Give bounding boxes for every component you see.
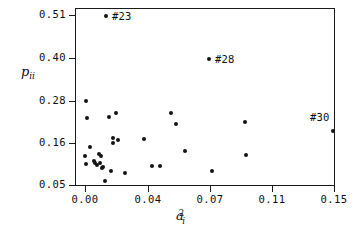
data-point (99, 154, 103, 158)
data-point (107, 115, 111, 119)
data-point (150, 164, 154, 168)
data-point (123, 171, 127, 175)
data-point (244, 153, 248, 157)
x-tick-label: 0.07 (197, 193, 224, 205)
point-annotation-label: #23 (112, 10, 132, 22)
scatter-plot-figure: 0.050.160.280.400.51 0.000.040.070.110.1… (0, 0, 363, 235)
y-tick-label: 0.40 (39, 51, 66, 63)
y-tick-label: 0.28 (39, 94, 66, 106)
plot-frame (75, 8, 335, 186)
x-tick-label: 0.11 (259, 193, 286, 205)
data-point (142, 137, 146, 141)
y-axis-title-subscript: ii (29, 71, 34, 81)
x-tick-mark (148, 186, 149, 192)
point-annotation-label: #30 (310, 111, 330, 123)
data-point (109, 169, 113, 173)
x-tick-mark (334, 186, 335, 192)
x-tick-mark (210, 186, 211, 192)
data-point (85, 116, 89, 120)
data-point (183, 149, 187, 153)
plot-area (76, 9, 334, 185)
x-tick-label: 0.00 (72, 193, 99, 205)
data-point (103, 179, 107, 183)
x-tick-label: 0.04 (135, 193, 162, 205)
y-tick-label: 0.51 (39, 8, 66, 20)
data-point (84, 99, 88, 103)
point-annotation-label: #28 (215, 53, 235, 65)
data-point (169, 111, 173, 115)
data-point (210, 169, 214, 173)
data-point (101, 165, 105, 169)
x-axis-title: a2i (176, 208, 185, 226)
data-point (116, 138, 120, 142)
x-tick-mark (272, 186, 273, 192)
data-point (83, 154, 87, 158)
data-point (84, 162, 88, 166)
data-point (104, 14, 108, 18)
data-point (174, 122, 178, 126)
data-point (114, 111, 118, 115)
data-point (111, 136, 115, 140)
y-tick-label: 0.05 (39, 178, 66, 190)
x-tick-mark (85, 186, 86, 192)
y-axis-title: pii (21, 64, 35, 81)
data-point (207, 57, 211, 61)
y-tick-label: 0.16 (39, 136, 66, 148)
data-point (88, 145, 92, 149)
x-axis-title-subscript: i (182, 216, 185, 226)
data-point (111, 141, 115, 145)
data-point (158, 164, 162, 168)
x-tick-label: 0.15 (321, 193, 348, 205)
data-point (331, 129, 335, 133)
data-point (243, 120, 247, 124)
